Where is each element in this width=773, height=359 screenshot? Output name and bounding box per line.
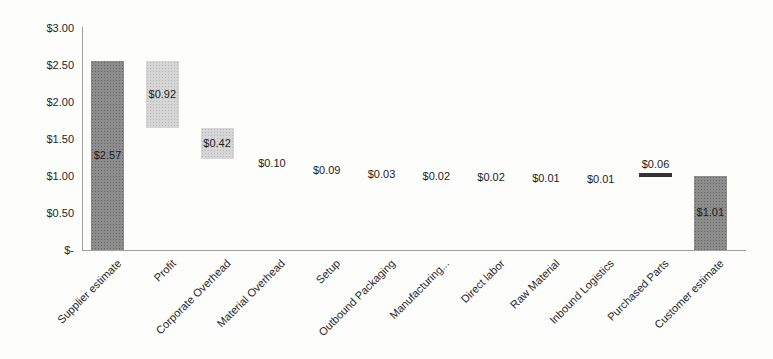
y-tick-label: $0.50 [14, 207, 74, 220]
value-label-corporate-overhead: $0.42 [185, 137, 249, 150]
category-label-manufacturing: Manufacturing... [388, 257, 452, 321]
value-label-profit: $0.92 [130, 88, 194, 101]
category-label-supplier-estimate: Supplier estimate [54, 257, 123, 326]
y-tick-label: $1.00 [14, 170, 74, 183]
y-tick-label: $1.50 [14, 133, 74, 146]
waterfall-chart: $3.00$2.50$2.00$1.50$1.00$0.50$- $2.57$0… [0, 0, 773, 359]
category-label-profit: Profit [151, 257, 178, 284]
y-tick-label: $2.50 [14, 59, 74, 72]
y-axis-line [82, 27, 83, 251]
value-label-supplier-estimate: $2.57 [76, 149, 140, 162]
value-label-purchased-parts: $0.06 [624, 158, 688, 171]
category-label-direct-labor: Direct labor [458, 257, 506, 305]
value-label-customer-estimate: $1.01 [678, 206, 742, 219]
y-tick-label: $3.00 [14, 22, 74, 35]
bar-purchased-parts [639, 173, 672, 177]
category-label-raw-material: Raw Material [508, 257, 562, 311]
y-tick-label: $2.00 [14, 96, 74, 109]
x-axis-line [82, 250, 746, 251]
category-label-setup: Setup [313, 257, 342, 286]
y-tick-label: $- [14, 244, 74, 257]
value-label-inbound-logistics: $0.01 [569, 173, 633, 186]
